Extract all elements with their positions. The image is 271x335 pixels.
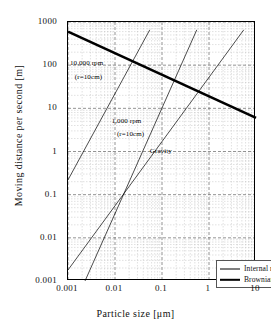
y-tick-label: 1000 bbox=[38, 17, 57, 26]
x-tick-label: 0.001 bbox=[56, 284, 78, 293]
chart-figure: 10,000 rpm(r=10cm)1,000 rpm(r=10cm)Gravi… bbox=[0, 0, 271, 335]
x-tick-label: 10 bbox=[250, 284, 260, 293]
x-tick-label: 1 bbox=[206, 284, 211, 293]
series-line bbox=[68, 30, 150, 180]
plot-area: 10,000 rpm(r=10cm)1,000 rpm(r=10cm)Gravi… bbox=[67, 21, 255, 280]
legend-item: Internal motion bbox=[219, 263, 271, 274]
x-axis-title: Particle size [μm] bbox=[0, 308, 271, 319]
y-tick-label: 1 bbox=[52, 146, 57, 155]
plot-annotation: (r=10cm) bbox=[117, 130, 144, 139]
legend-swatch-internal-motion bbox=[219, 263, 241, 274]
y-tick-label: 100 bbox=[43, 60, 57, 69]
y-tick-label: 10 bbox=[47, 103, 57, 112]
legend-label-internal-motion: Internal motion bbox=[241, 264, 271, 273]
y-tick-label: 0.1 bbox=[45, 189, 57, 198]
plot-annotation: 10,000 rpm bbox=[70, 59, 103, 68]
y-tick-label: 0.01 bbox=[40, 232, 57, 241]
y-tick-label: 0.001 bbox=[35, 276, 57, 285]
plot-annotation: Gravity bbox=[150, 147, 172, 156]
x-tick-label: 0.1 bbox=[155, 284, 167, 293]
plot-annotation: 1,000 rpm bbox=[112, 117, 142, 126]
y-axis-tick-labels: 0.0010.010.11101001000 bbox=[0, 21, 63, 280]
y-axis-title: Moving distance per second [m] bbox=[13, 26, 24, 246]
x-axis-tick-labels: 0.0010.010.1110 bbox=[67, 284, 255, 298]
x-tick-label: 0.01 bbox=[106, 284, 123, 293]
plot-annotation: (r=10cm) bbox=[75, 73, 102, 82]
